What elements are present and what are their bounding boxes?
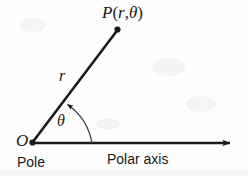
- point-p-dot: [114, 26, 120, 32]
- point-p-close-paren: ): [137, 3, 143, 22]
- point-p-label: P(r,θ): [102, 4, 143, 21]
- origin-label: O: [16, 132, 28, 149]
- radius-label: r: [59, 68, 65, 84]
- polar-diagram-graphic: [0, 0, 248, 176]
- radius-ray-line: [32, 30, 118, 143]
- angle-label: θ: [57, 113, 65, 129]
- polar-axis-label: Polar axis: [107, 152, 168, 166]
- origin-dot: [29, 139, 35, 145]
- polar-diagram-figure: P(r,θ) r θ O Pole Polar axis: [0, 0, 248, 176]
- angle-arc: [68, 105, 93, 144]
- point-p-letter: P: [102, 3, 112, 22]
- point-p-r-symbol: r: [118, 3, 125, 22]
- pole-label: Pole: [17, 155, 45, 169]
